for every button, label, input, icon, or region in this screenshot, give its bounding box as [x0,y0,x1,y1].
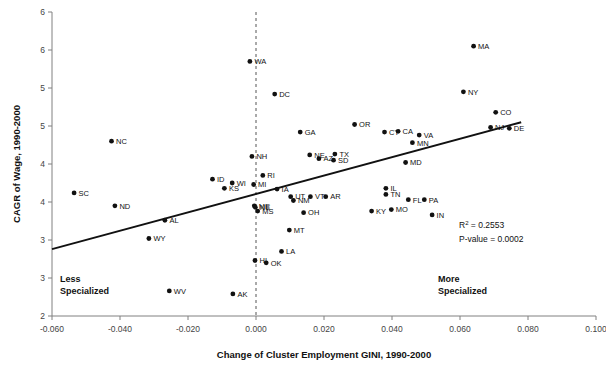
data-point[interactable] [250,154,255,159]
data-point-label: MS [262,207,273,216]
data-point[interactable] [230,292,235,297]
data-point[interactable] [323,194,328,199]
data-point-label: AL [169,216,178,225]
data-point-label: NC [116,137,127,146]
chart-canvas: 665544332-0.060-0.040-0.0200.0000.0200.0… [0,0,606,373]
data-point-label: TN [390,190,400,199]
data-point[interactable] [162,218,167,223]
y-tick-label: 4 [40,159,45,169]
data-point-label: OK [271,259,282,268]
x-axis-title: Change of Cluster Employment GINI, 1990-… [217,349,431,360]
x-tick-label: 0.100 [585,324,606,334]
x-tick-label: -0.060 [40,324,64,334]
data-point[interactable] [430,213,435,218]
less-specialized-line2: Specialized [60,286,109,296]
y-tick-label: 6 [40,7,45,17]
data-point-label: WI [237,179,246,188]
data-point[interactable] [369,209,374,214]
data-point[interactable] [279,249,284,254]
data-point[interactable] [417,133,422,138]
data-point[interactable] [109,139,114,144]
data-point[interactable] [275,187,280,192]
data-point[interactable] [507,126,512,131]
data-point[interactable] [222,186,227,191]
data-point-label: MD [410,158,422,167]
data-point[interactable] [308,194,313,199]
more-specialized-line1: More [438,274,460,284]
data-point[interactable] [291,198,296,203]
data-point-label: SC [79,189,90,198]
data-point-label: DC [279,90,290,99]
data-point[interactable] [167,289,172,294]
data-point[interactable] [72,190,77,195]
data-point[interactable] [264,260,269,265]
x-tick-label: 0.000 [245,324,267,334]
data-point[interactable] [331,158,336,163]
data-point-label: MI [258,180,266,189]
data-point-label: DE [514,124,524,133]
data-point[interactable] [383,186,388,191]
data-point-label: VA [424,131,433,140]
x-tick-label: -0.040 [108,324,132,334]
data-point[interactable] [410,140,415,145]
data-point-label: ID [217,175,225,184]
p-value-stat: P-value = 0.0002 [459,234,524,244]
data-point[interactable] [260,173,265,178]
data-point[interactable] [301,210,306,215]
data-point[interactable] [251,182,256,187]
data-point[interactable] [493,110,498,115]
data-point-label: AK [237,290,247,299]
y-tick-label: 2 [40,311,45,321]
data-point[interactable] [287,228,292,233]
x-tick-label: 0.020 [313,324,335,334]
data-point-label: AR [330,192,341,201]
y-tick-label: 3 [40,235,45,245]
data-point[interactable] [247,59,252,64]
y-tick-label: 6 [40,45,45,55]
r-squared-stat: R2 = 0.2553 [459,220,504,230]
data-point-label: GA [305,128,316,137]
data-point[interactable] [272,92,277,97]
data-point[interactable] [298,130,303,135]
data-point[interactable] [253,258,258,263]
y-axis-title: CAGR of Wage, 1990-2000 [11,105,22,223]
data-point[interactable] [471,44,476,49]
data-point[interactable] [389,207,394,212]
y-tick-label: 4 [40,197,45,207]
data-point[interactable] [352,122,357,127]
y-tick-label: 5 [40,83,45,93]
data-point-label: TX [339,150,349,159]
data-point-label: MA [478,42,489,51]
data-point[interactable] [383,192,388,197]
data-point-label: FL [413,196,422,205]
data-point[interactable] [307,152,312,157]
data-point-label: CA [403,127,413,136]
data-point-label: OH [308,208,319,217]
data-point[interactable] [230,181,235,186]
data-point[interactable] [317,156,322,161]
data-point-label: NH [256,152,267,161]
data-point-label: RI [267,171,275,180]
data-point[interactable] [406,197,411,202]
data-point[interactable] [403,160,408,165]
x-tick-label: 0.080 [517,324,539,334]
data-point[interactable] [210,177,215,182]
data-point[interactable] [461,89,466,94]
data-point[interactable] [147,236,152,241]
data-point[interactable] [382,130,387,135]
data-point[interactable] [488,125,493,130]
data-point-label: WV [174,287,186,296]
data-point-label: ND [119,202,130,211]
data-point-label: WA [254,57,266,66]
data-point-label: MT [294,226,305,235]
data-point[interactable] [396,129,401,134]
data-point[interactable] [255,209,260,214]
data-point[interactable] [113,203,118,208]
data-point-label: NM [298,196,310,205]
data-point[interactable] [422,197,427,202]
data-point-label: MO [396,205,408,214]
data-point[interactable] [332,152,337,157]
x-tick-label: 0.060 [449,324,471,334]
y-tick-label: 3 [40,273,45,283]
data-point-label: IN [437,211,445,220]
